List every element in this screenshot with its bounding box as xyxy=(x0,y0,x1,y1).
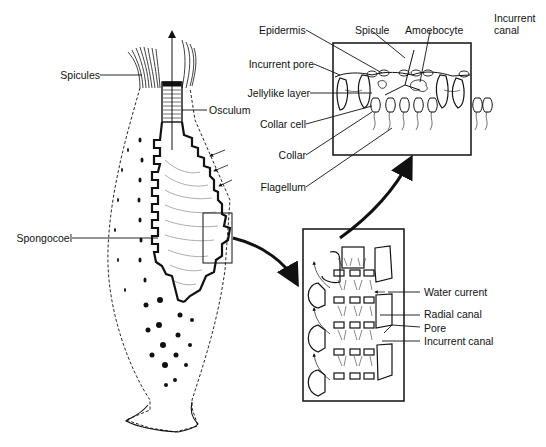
label-radial-canal: Radial canal xyxy=(424,308,482,320)
label-osculum: Osculum xyxy=(209,104,250,116)
cell-detail xyxy=(333,43,492,155)
cutaway-wall-right xyxy=(182,122,230,302)
label-jellylike-layer: Jellylike layer xyxy=(230,87,310,99)
arrow-to-cell-detail xyxy=(340,160,410,238)
label-water-current: Water current xyxy=(424,286,487,298)
label-incurrent-canal: Incurrent canal xyxy=(424,335,493,347)
label-flagellum: Flagellum xyxy=(246,181,306,193)
label-spongocoel: Spongocoel xyxy=(14,232,72,244)
sponge-body xyxy=(108,32,232,432)
label-incurrent-pore: Incurrent pore xyxy=(236,58,314,70)
arrow-to-canal-detail xyxy=(233,238,296,282)
cutaway-wall-left xyxy=(152,122,184,302)
label-incurrent-canal-top-1: Incurrent xyxy=(494,12,535,24)
spongocoel-shading xyxy=(165,160,218,285)
spicule-fringe xyxy=(128,40,196,88)
canal-inner-bracket xyxy=(342,247,364,268)
body-outline xyxy=(108,88,230,432)
body-base xyxy=(126,402,198,432)
label-spicule: Spicule xyxy=(355,24,389,36)
label-collar: Collar xyxy=(266,149,306,161)
label-epidermis: Epidermis xyxy=(259,24,306,36)
label-spicules: Spicules xyxy=(56,69,100,81)
label-amoebocyte: Amoebocyte xyxy=(405,24,463,36)
label-incurrent-canal-top-2: canal xyxy=(494,24,519,36)
label-pore: Pore xyxy=(424,322,446,334)
label-collar-cell: Collar cell xyxy=(246,118,306,130)
body-pores xyxy=(114,138,194,388)
